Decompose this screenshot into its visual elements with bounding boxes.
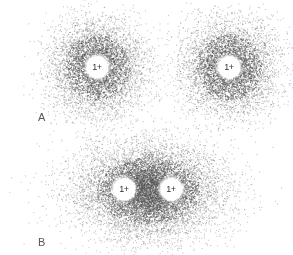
panel-label-a: A — [38, 111, 45, 123]
nucleus-b-right: 1+ — [161, 179, 181, 199]
nucleus-a-left: 1+ — [87, 57, 107, 77]
electron-cloud-canvas — [0, 0, 293, 255]
nucleus-b-left: 1+ — [114, 179, 134, 199]
panel-label-b: B — [38, 236, 45, 248]
nucleus-a-right: 1+ — [219, 57, 239, 77]
